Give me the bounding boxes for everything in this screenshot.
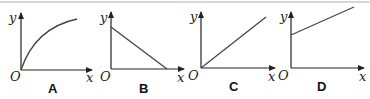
graph-c-line xyxy=(201,17,266,68)
option-label-d: D xyxy=(317,79,326,94)
x-axis-label: x xyxy=(359,69,367,84)
graph-d: y O x D xyxy=(278,7,367,94)
origin-label: O xyxy=(100,69,111,84)
option-label-a: A xyxy=(48,81,58,96)
x-axis-label: x xyxy=(86,70,94,85)
y-axis-label: y xyxy=(279,9,288,24)
graph-options-figure: y O x A y O x B y O x C xyxy=(0,0,370,99)
graph-d-line xyxy=(291,7,354,35)
y-axis-label: y xyxy=(189,9,198,24)
y-axis-label: y xyxy=(99,10,108,25)
graphs-canvas: y O x A y O x B y O x C xyxy=(0,0,370,99)
origin-label: O xyxy=(10,69,21,84)
graph-b: y O x B xyxy=(99,10,185,96)
option-label-c: C xyxy=(229,79,239,94)
graph-b-line xyxy=(111,27,167,69)
x-axis-label: x xyxy=(177,70,185,85)
graph-a: y O x A xyxy=(8,10,94,96)
origin-label: O xyxy=(278,68,289,83)
option-label-b: B xyxy=(139,81,148,96)
origin-label: O xyxy=(188,68,199,83)
graph-c: y O x C xyxy=(188,9,276,94)
x-axis-label: x xyxy=(268,69,276,84)
y-axis-label: y xyxy=(8,10,17,25)
graph-a-curve xyxy=(21,19,77,70)
